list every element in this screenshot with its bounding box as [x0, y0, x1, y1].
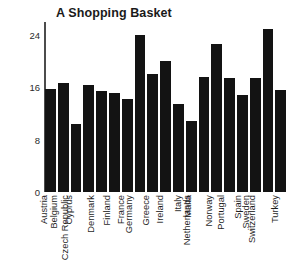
x-axis-tick-label: Austria — [39, 166, 49, 195]
x-axis-tick-label-text: Netherlands — [182, 195, 192, 245]
x-axis-tick-label: Netherlands — [182, 145, 192, 195]
x-axis-tick-label-text: Turkey — [270, 195, 280, 223]
x-axis-tick-label-text: Greece — [141, 195, 151, 226]
x-axis-tick-label-text: Belgium — [50, 195, 60, 229]
x-axis-tick-label: Ireland — [155, 167, 165, 195]
x-axis-tick-label: Greece — [141, 165, 151, 196]
x-label-slot: Ireland — [159, 194, 172, 264]
x-axis-tick-label: Finland — [102, 165, 112, 196]
x-axis-tick-label-text: Germany — [124, 195, 134, 233]
x-axis-tick-label: Belgium — [50, 161, 60, 195]
x-axis-tick-label-text: Switzerland — [247, 195, 257, 243]
chart-title: A Shopping Basket — [56, 6, 172, 20]
x-axis-tick-label: Germany — [124, 157, 134, 195]
y-axis-tick-label: 0 — [0, 187, 40, 198]
x-axis-tick-label-text: Finland — [102, 195, 112, 226]
x-label-slot: Cyprus — [70, 194, 83, 264]
x-axis-tick-label: Denmark — [86, 157, 96, 195]
x-axis-tick-label: Portugal — [215, 160, 225, 195]
x-axis-tick-label-text: Czech Republic — [59, 195, 69, 260]
y-axis-tick-label: 24 — [0, 30, 40, 41]
bar-chart: A Shopping Basket 081624 AustriaBelgiumC… — [0, 0, 293, 264]
x-axis-labels: AustriaBelgiumCyprusCzech RepublicDenmar… — [44, 194, 287, 264]
y-axis-tick-label: 8 — [0, 134, 40, 145]
x-axis-tick-label-text: Portugal — [215, 195, 225, 230]
y-axis-tick-label: 16 — [0, 82, 40, 93]
x-axis-tick-label-text: Denmark — [86, 195, 96, 233]
x-axis-tick-label-text: Norway — [204, 195, 214, 227]
x-axis-tick-label-text: Austria — [39, 195, 49, 224]
x-axis-tick-label: Czech Republic — [59, 130, 69, 195]
x-axis-tick-label-text: Ireland — [155, 195, 165, 223]
x-axis-tick-label: Turkey — [270, 167, 280, 195]
x-axis-tick-label: Norway — [204, 163, 214, 195]
x-axis-tick-label: Switzerland — [247, 147, 257, 195]
x-label-slot: Turkey — [274, 194, 287, 264]
